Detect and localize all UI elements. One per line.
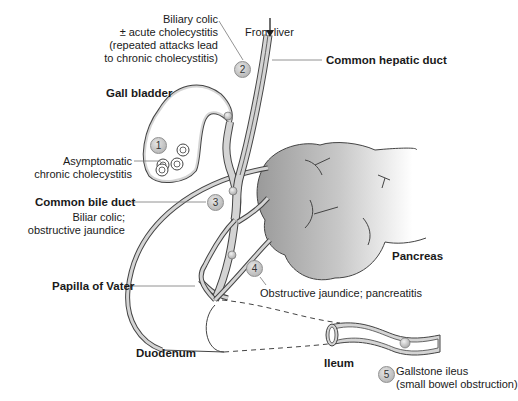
label-common-hepatic-duct: Common hepatic duct — [326, 54, 447, 67]
label-duodenum: Duodenum — [136, 347, 196, 360]
badge-3: 3 — [207, 194, 224, 211]
badge-1: 1 — [150, 137, 167, 154]
label-obstructive-pancreatitis: Obstructive jaundice; pancreatitis — [260, 287, 422, 300]
badge-4: 4 — [246, 260, 263, 277]
gall-bladder-shape — [145, 87, 231, 181]
label-ileum: Ileum — [324, 357, 354, 370]
ileum-shape — [326, 323, 440, 355]
label-biliary-colic: Biliary colic — [150, 13, 218, 26]
label-acute-cholecystitis: ± acute cholecystitis (repeated attacks … — [100, 26, 218, 65]
label-asymptomatic: Asymptomatic chronic cholecystitis — [20, 155, 132, 181]
label-pancreas: Pancreas — [392, 250, 443, 263]
label-gallstone-ileus: Gallstone ileus (small bowel obstruction… — [396, 365, 518, 391]
label-papilla-of-vater: Papilla of Vater — [52, 280, 134, 293]
badge-5: 5 — [378, 366, 395, 383]
label-from-liver: From liver — [245, 26, 294, 39]
label-common-bile-duct: Common bile duct — [35, 196, 135, 209]
badge-2: 2 — [234, 61, 251, 78]
label-gall-bladder: Gall bladder — [106, 87, 172, 100]
label-cbd-description: Biliar colic; obstructive jaundice — [20, 211, 125, 237]
